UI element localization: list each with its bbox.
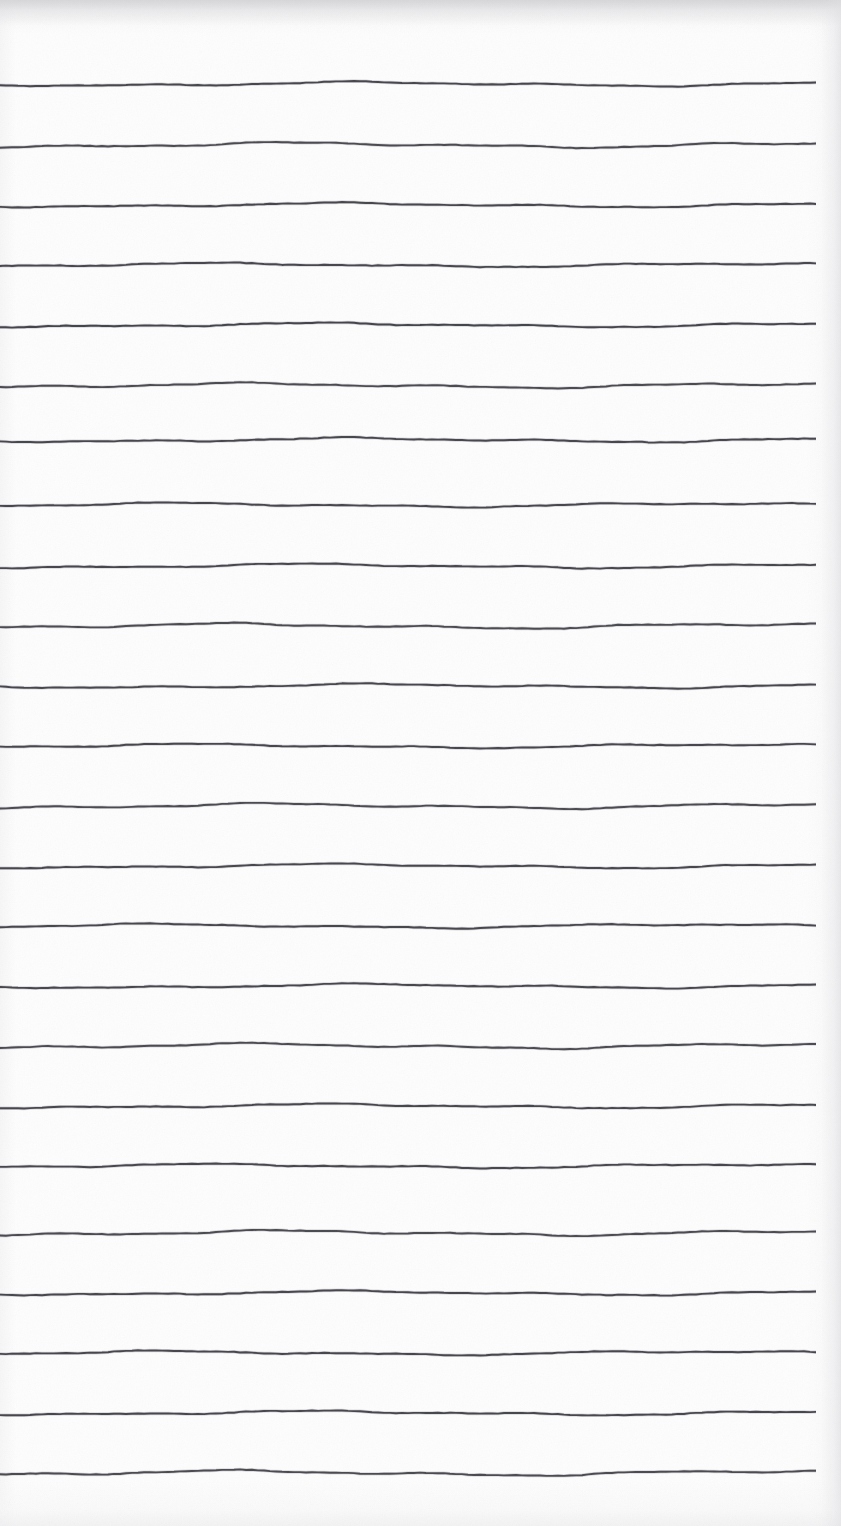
- ruled-line: [0, 1158, 816, 1174]
- ruled-line: [0, 918, 816, 934]
- ruled-line: [0, 738, 816, 754]
- ruled-line: [0, 497, 816, 513]
- ruled-line: [0, 558, 816, 574]
- ruled-line: [0, 1098, 816, 1114]
- ruled-line: [0, 1037, 816, 1055]
- ruled-line: [0, 617, 816, 635]
- ruled-line: [0, 432, 816, 448]
- ruled-line: [0, 1285, 816, 1301]
- ruled-line: [0, 257, 816, 273]
- ruled-line: [0, 978, 816, 994]
- ruled-line: [0, 1405, 816, 1421]
- ruled-line: [0, 1224, 816, 1242]
- ruled-line: [0, 797, 816, 815]
- ruled-line: [0, 197, 816, 213]
- ruled-lines-group: [0, 0, 841, 1526]
- ruled-line: [0, 858, 816, 874]
- ruled-line: [0, 678, 816, 694]
- ruled-line: [0, 1464, 816, 1482]
- ruled-line: [0, 136, 816, 154]
- paper-page: [0, 0, 841, 1526]
- ruled-line: [0, 377, 816, 394]
- ruled-line: [0, 317, 816, 333]
- ruled-line: [0, 1345, 816, 1361]
- ruled-line: [0, 76, 816, 92]
